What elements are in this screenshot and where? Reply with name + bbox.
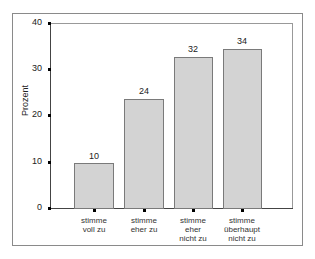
- y-tick-mark: [48, 207, 51, 210]
- y-tick-label: 0: [22, 202, 42, 212]
- bar-stimme-voll-zu: [74, 163, 114, 209]
- y-tick-label: 10: [22, 156, 42, 166]
- y-tick-mark: [48, 114, 51, 117]
- y-tick-label: 20: [22, 109, 42, 119]
- bar-value-label: 32: [173, 44, 213, 54]
- bar-stimme-eher-nicht-zu: [174, 57, 213, 209]
- y-tick-mark: [48, 68, 51, 71]
- x-tick-mark: [192, 209, 195, 212]
- bar-value-label: 24: [124, 86, 164, 96]
- y-tick-label: 30: [22, 63, 42, 73]
- x-tick-mark: [93, 209, 96, 212]
- bar-stimme-ueberhaupt-nicht-zu: [223, 49, 262, 209]
- y-tick-mark: [48, 22, 51, 25]
- bar-value-label: 34: [222, 36, 262, 46]
- x-label-line: nicht zu: [212, 234, 272, 243]
- y-tick-label: 40: [22, 17, 42, 27]
- x-tick-label-stimme-ueberhaupt-nicht-zu: stimme überhaupt nicht zu: [212, 216, 272, 243]
- bar-value-label: 10: [74, 151, 114, 161]
- y-tick-mark: [48, 161, 51, 164]
- x-label-line: überhaupt: [212, 225, 272, 234]
- x-tick-mark: [241, 209, 244, 212]
- x-tick-mark: [143, 209, 146, 212]
- bar-stimme-eher-zu: [124, 99, 164, 209]
- x-label-line: stimme: [212, 216, 272, 225]
